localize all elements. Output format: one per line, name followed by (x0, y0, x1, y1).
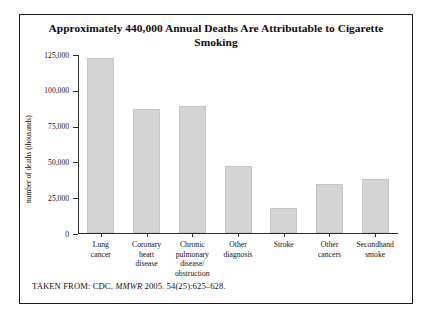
x-axis-labels: LungcancerCoronaryheartdiseaseChronicpul… (78, 240, 398, 278)
bar (270, 208, 297, 233)
bar (316, 184, 343, 232)
bar-slot (307, 55, 353, 233)
bar-slot (352, 55, 398, 233)
x-axis-tick (147, 233, 148, 237)
source-journal: MMWR (115, 281, 142, 291)
x-axis-tick (192, 233, 193, 237)
bar (87, 58, 114, 233)
bar (362, 179, 389, 233)
x-axis-tick (375, 233, 376, 237)
plot-box: 025,00050,00075,000100,000125,000 (78, 55, 398, 234)
x-axis-tick (101, 233, 102, 237)
x-axis-tick (329, 233, 330, 237)
figure-frame: Approximately 440,000 Annual Deaths Are … (19, 14, 413, 304)
x-axis-label: Lungcancer (78, 240, 124, 278)
y-axis-tick-label: 100,000 (44, 85, 69, 96)
y-axis-tick-label: 0 (65, 229, 69, 240)
bar-slot (78, 55, 124, 233)
bar (133, 109, 160, 233)
x-axis-label: Coronaryheartdisease (124, 240, 170, 278)
bar-slot (169, 55, 215, 233)
y-axis-title: number of deaths (thousands) (24, 99, 38, 219)
bar-series (78, 55, 398, 233)
bar (179, 106, 206, 233)
y-axis-tick-label: 50,000 (48, 157, 69, 168)
x-axis-label: Stroke (261, 240, 307, 278)
bar-slot (215, 55, 261, 233)
bar (225, 166, 252, 233)
y-axis-tick-label: 25,000 (48, 193, 69, 204)
bar-slot (261, 55, 307, 233)
y-axis-tick-label: 125,000 (44, 50, 69, 61)
x-axis-label: Chronicpulmonarydisease/obstruction (169, 240, 215, 278)
x-axis-tick (238, 233, 239, 237)
x-axis-label: Otherdiagnosis (215, 240, 261, 278)
y-axis-tick-label: 75,000 (48, 121, 69, 132)
source-citation: TAKEN FROM: CDC, MMWR 2005. 54(25):625–6… (32, 281, 226, 292)
x-axis-tick (284, 233, 285, 237)
y-axis-tick: 0 (73, 234, 78, 235)
chart-plot-area: number of deaths (thousands) 025,00050,0… (20, 44, 414, 259)
x-axis-label: Secondhandsmoke (352, 240, 398, 278)
bar-slot (124, 55, 170, 233)
x-axis-label: Othercancers (307, 240, 353, 278)
source-prefix: TAKEN FROM: CDC, (32, 281, 113, 291)
source-suffix: 2005. 54(25):625–628. (145, 281, 226, 291)
